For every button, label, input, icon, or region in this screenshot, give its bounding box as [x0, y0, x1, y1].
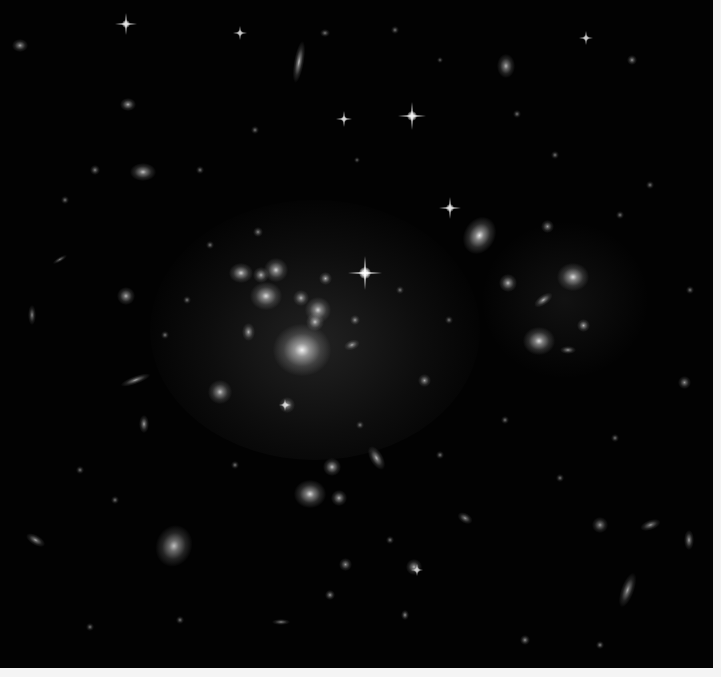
galaxy	[541, 220, 554, 233]
galaxy	[320, 29, 330, 37]
star-diffraction-spikes	[279, 399, 291, 411]
galaxy	[386, 536, 394, 544]
galaxy	[551, 151, 559, 159]
galaxy	[523, 327, 554, 356]
galaxy	[111, 496, 119, 504]
galaxy	[325, 590, 335, 600]
galaxy	[272, 619, 290, 624]
cluster-secondary-glow	[480, 220, 650, 380]
galaxy	[86, 623, 94, 631]
star-diffraction-spikes	[348, 256, 382, 290]
galaxy	[615, 571, 640, 610]
galaxy	[242, 323, 255, 341]
star-diffraction-spikes	[411, 564, 423, 576]
galaxy	[331, 490, 347, 506]
star-diffraction-spikes	[579, 31, 593, 45]
star-core	[359, 267, 371, 279]
deep-field-image	[0, 0, 713, 668]
star-core	[583, 35, 589, 41]
galaxy	[456, 510, 475, 527]
galaxy	[150, 520, 198, 572]
galaxy	[356, 421, 364, 429]
galaxy	[294, 480, 325, 509]
star-diffraction-spikes	[336, 111, 352, 127]
galaxy	[183, 296, 191, 304]
galaxy	[76, 466, 84, 474]
galaxy	[290, 41, 307, 84]
galaxy	[196, 166, 204, 174]
galaxy	[616, 211, 624, 219]
galaxy	[396, 286, 404, 294]
galaxy	[273, 324, 330, 376]
galaxy	[678, 376, 691, 389]
galaxy	[293, 290, 309, 306]
galaxy	[12, 39, 28, 52]
galaxy	[445, 316, 453, 324]
galaxy	[250, 282, 281, 311]
galaxy	[28, 305, 36, 326]
galaxy	[418, 374, 431, 387]
galaxy	[560, 346, 576, 354]
galaxy	[251, 126, 259, 134]
galaxy	[611, 434, 619, 442]
star-diffraction-spikes	[398, 102, 426, 130]
galaxy	[596, 641, 604, 649]
star-core	[341, 116, 347, 122]
galaxy	[130, 163, 156, 181]
galaxy	[229, 263, 252, 284]
star-core	[414, 567, 420, 573]
galaxy	[401, 610, 409, 620]
galaxy	[206, 241, 214, 249]
galaxy	[319, 272, 332, 285]
galaxy	[577, 319, 590, 332]
galaxy	[90, 165, 100, 175]
galaxy	[391, 26, 399, 34]
galaxy	[323, 458, 341, 476]
galaxy	[120, 371, 152, 389]
galaxy	[638, 517, 661, 534]
galaxy	[684, 530, 694, 551]
galaxy	[501, 416, 509, 424]
galaxy	[520, 635, 530, 645]
galaxy	[61, 196, 69, 204]
galaxy	[436, 451, 444, 459]
galaxy	[253, 267, 269, 283]
galaxy	[646, 181, 654, 189]
galaxy	[117, 287, 135, 305]
star-core	[407, 111, 417, 121]
galaxy	[497, 54, 515, 77]
galaxy	[686, 286, 694, 294]
galaxy	[52, 254, 68, 266]
galaxy	[592, 517, 608, 533]
star-diffraction-spikes	[439, 197, 461, 219]
galaxy	[513, 110, 521, 118]
galaxy	[339, 558, 352, 571]
galaxy	[23, 530, 46, 549]
galaxy	[231, 461, 239, 469]
galaxy	[557, 263, 588, 292]
star-diffraction-spikes	[233, 26, 247, 40]
star-core	[122, 20, 130, 28]
galaxy	[437, 57, 442, 62]
star-core	[446, 204, 454, 212]
star-core	[237, 30, 243, 36]
galaxy	[120, 98, 136, 111]
galaxy	[627, 55, 637, 65]
star-core	[282, 402, 288, 408]
galaxy	[556, 474, 564, 482]
galaxy	[139, 415, 149, 433]
star-diffraction-spikes	[115, 13, 137, 35]
galaxy	[176, 616, 184, 624]
galaxy	[354, 157, 359, 162]
galaxy	[161, 331, 169, 339]
